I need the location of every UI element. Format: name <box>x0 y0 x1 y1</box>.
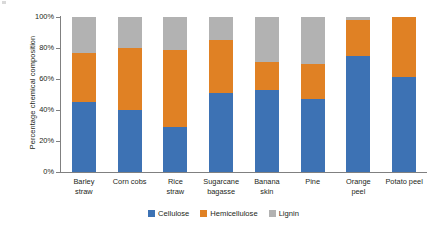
bar-segment-hemicellulose[interactable] <box>255 62 279 90</box>
bar-segment-cellulose[interactable] <box>209 93 233 172</box>
bar-segment-cellulose[interactable] <box>72 102 96 172</box>
y-tick-mark <box>56 172 60 173</box>
bar-stack[interactable] <box>118 17 142 172</box>
y-tick-label: 80% <box>2 44 54 51</box>
bar-segment-cellulose[interactable] <box>118 110 142 172</box>
bar-segment-lignin[interactable] <box>346 17 370 20</box>
bar-stack[interactable] <box>346 17 370 172</box>
y-tick-label-wrap: 60% <box>0 75 54 83</box>
bar-segment-lignin[interactable] <box>255 17 279 62</box>
legend-swatch-icon <box>269 210 276 217</box>
scan-artifact <box>2 1 6 4</box>
plot-area <box>61 17 427 172</box>
chart-legend: CelluloseHemicelluloseLignin <box>0 210 447 218</box>
x-axis-label-line: skin <box>239 187 295 197</box>
x-axis-line <box>60 172 427 173</box>
bar-stack[interactable] <box>392 17 416 172</box>
bar-stack[interactable] <box>163 17 187 172</box>
bar-stack[interactable] <box>301 17 325 172</box>
x-axis-label-line: Potato peel <box>376 177 432 187</box>
bar-segment-hemicellulose[interactable] <box>72 53 96 103</box>
bar-segment-cellulose[interactable] <box>301 99 325 172</box>
y-tick-label-wrap: 0% <box>0 168 54 176</box>
y-tick-mark <box>56 79 60 80</box>
x-axis-label: Potato peel <box>376 177 432 187</box>
bar-segment-hemicellulose[interactable] <box>209 40 233 93</box>
y-tick-label: 40% <box>2 106 54 113</box>
bar-segment-lignin[interactable] <box>209 17 233 40</box>
legend-label: Lignin <box>279 210 299 218</box>
y-tick-label-wrap: 40% <box>0 106 54 114</box>
bar-stack[interactable] <box>209 17 233 172</box>
y-tick-mark <box>56 110 60 111</box>
y-tick-mark <box>56 17 60 18</box>
legend-item[interactable]: Lignin <box>269 210 299 218</box>
bar-segment-lignin[interactable] <box>301 17 325 64</box>
y-tick-mark <box>56 48 60 49</box>
y-tick-label-wrap: 20% <box>0 137 54 145</box>
legend-label: Cellulose <box>158 210 189 218</box>
bar-stack[interactable] <box>72 17 96 172</box>
bar-segment-hemicellulose[interactable] <box>163 50 187 128</box>
bar-segment-hemicellulose[interactable] <box>346 20 370 56</box>
y-tick-label: 0% <box>2 168 54 175</box>
y-tick-label: 20% <box>2 137 54 144</box>
legend-item[interactable]: Hemicellulose <box>200 210 257 218</box>
bar-segment-cellulose[interactable] <box>346 56 370 172</box>
bar-segment-lignin[interactable] <box>72 17 96 53</box>
bar-segment-hemicellulose[interactable] <box>118 48 142 110</box>
stacked-bar-chart: Percentage chemical composition 0%20%40%… <box>0 0 447 234</box>
bar-segment-cellulose[interactable] <box>392 77 416 172</box>
bar-stack[interactable] <box>255 17 279 172</box>
y-tick-label: 60% <box>2 75 54 82</box>
bar-segment-hemicellulose[interactable] <box>301 64 325 100</box>
y-tick-mark <box>56 141 60 142</box>
y-axis-title: Percentage chemical composition <box>28 13 37 173</box>
x-axis-label-line: peel <box>330 187 386 197</box>
legend-swatch-icon <box>148 210 155 217</box>
y-tick-label-wrap: 100% <box>0 13 54 21</box>
bar-segment-lignin[interactable] <box>163 17 187 50</box>
y-tick-label: 100% <box>2 13 54 20</box>
bar-segment-cellulose[interactable] <box>255 90 279 172</box>
legend-swatch-icon <box>200 210 207 217</box>
legend-label: Hemicellulose <box>210 210 257 218</box>
bar-segment-cellulose[interactable] <box>163 127 187 172</box>
y-tick-label-wrap: 80% <box>0 44 54 52</box>
x-axis-label-line: straw <box>56 187 112 197</box>
legend-item[interactable]: Cellulose <box>148 210 189 218</box>
bar-segment-lignin[interactable] <box>118 17 142 48</box>
bar-segment-hemicellulose[interactable] <box>392 17 416 77</box>
